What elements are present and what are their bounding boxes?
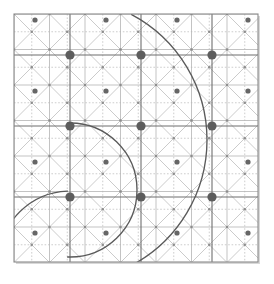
medium-lattice-dot bbox=[103, 159, 108, 164]
minor-lattice-dot bbox=[66, 173, 69, 176]
medium-lattice-dot bbox=[32, 17, 37, 22]
minor-lattice-dot bbox=[244, 102, 247, 105]
medium-lattice-dot bbox=[103, 17, 108, 22]
minor-lattice-dot bbox=[208, 173, 211, 176]
minor-lattice-dot bbox=[244, 244, 247, 247]
minor-lattice-dot bbox=[102, 66, 105, 69]
minor-lattice-dot bbox=[244, 173, 247, 176]
minor-lattice-dot bbox=[208, 102, 211, 105]
minor-lattice-dot bbox=[119, 226, 122, 229]
minor-lattice-dot bbox=[31, 137, 34, 140]
minor-lattice-dot bbox=[31, 173, 34, 176]
minor-lattice-dot bbox=[173, 66, 176, 69]
major-lattice-dot bbox=[207, 192, 216, 201]
minor-lattice-dot bbox=[208, 66, 211, 69]
minor-lattice-dot bbox=[226, 190, 229, 193]
minor-lattice-dot bbox=[137, 137, 140, 140]
medium-lattice-dot bbox=[103, 230, 108, 235]
minor-lattice-dot bbox=[102, 173, 105, 176]
minor-lattice-dot bbox=[84, 226, 87, 229]
minor-lattice-dot bbox=[226, 48, 229, 51]
minor-lattice-dot bbox=[48, 226, 51, 229]
minor-lattice-dot bbox=[66, 208, 69, 211]
minor-lattice-dot bbox=[208, 244, 211, 247]
medium-lattice-dot bbox=[245, 17, 250, 22]
minor-lattice-dot bbox=[66, 137, 69, 140]
major-lattice-dot bbox=[65, 50, 74, 59]
minor-lattice-dot bbox=[102, 208, 105, 211]
minor-lattice-dot bbox=[155, 84, 158, 87]
minor-lattice-dot bbox=[31, 31, 34, 34]
minor-lattice-dot bbox=[155, 48, 158, 51]
minor-lattice-dot bbox=[31, 66, 34, 69]
minor-lattice-dot bbox=[66, 31, 69, 34]
major-lattice-dot bbox=[207, 50, 216, 59]
minor-lattice-dot bbox=[155, 155, 158, 158]
minor-lattice-dot bbox=[244, 66, 247, 69]
medium-lattice-dot bbox=[32, 230, 37, 235]
minor-lattice-dot bbox=[190, 48, 193, 51]
minor-lattice-dot bbox=[48, 84, 51, 87]
minor-lattice-dot bbox=[48, 48, 51, 51]
minor-lattice-dot bbox=[84, 119, 87, 122]
medium-lattice-dot bbox=[32, 159, 37, 164]
medium-lattice-dot bbox=[245, 230, 250, 235]
minor-lattice-dot bbox=[137, 208, 140, 211]
medium-lattice-dot bbox=[174, 17, 179, 22]
medium-lattice-dot bbox=[174, 230, 179, 235]
minor-lattice-dot bbox=[102, 244, 105, 247]
minor-lattice-dot bbox=[226, 226, 229, 229]
medium-lattice-dot bbox=[32, 88, 37, 93]
minor-lattice-dot bbox=[48, 155, 51, 158]
minor-lattice-dot bbox=[190, 119, 193, 122]
minor-lattice-dot bbox=[173, 137, 176, 140]
minor-lattice-dot bbox=[31, 102, 34, 105]
minor-lattice-dot bbox=[119, 190, 122, 193]
minor-lattice-dot bbox=[208, 208, 211, 211]
minor-lattice-dot bbox=[190, 84, 193, 87]
minor-lattice-dot bbox=[244, 208, 247, 211]
medium-lattice-dot bbox=[174, 88, 179, 93]
minor-lattice-dot bbox=[48, 119, 51, 122]
minor-lattice-dot bbox=[137, 173, 140, 176]
major-lattice-dot bbox=[136, 121, 145, 130]
minor-lattice-dot bbox=[226, 84, 229, 87]
minor-lattice-dot bbox=[244, 137, 247, 140]
minor-lattice-dot bbox=[84, 190, 87, 193]
minor-lattice-dot bbox=[137, 244, 140, 247]
minor-lattice-dot bbox=[226, 119, 229, 122]
major-lattice-dot bbox=[65, 192, 74, 201]
minor-lattice-dot bbox=[155, 190, 158, 193]
minor-lattice-dot bbox=[244, 31, 247, 34]
major-lattice-dot bbox=[136, 192, 145, 201]
minor-lattice-dot bbox=[137, 31, 140, 34]
minor-lattice-dot bbox=[173, 244, 176, 247]
minor-lattice-dot bbox=[84, 84, 87, 87]
minor-lattice-dot bbox=[155, 226, 158, 229]
minor-lattice-dot bbox=[190, 190, 193, 193]
minor-lattice-dot bbox=[102, 102, 105, 105]
minor-lattice-dot bbox=[137, 66, 140, 69]
minor-lattice-dot bbox=[102, 137, 105, 140]
medium-lattice-dot bbox=[245, 159, 250, 164]
medium-lattice-dot bbox=[103, 88, 108, 93]
major-lattice-dot bbox=[207, 121, 216, 130]
minor-lattice-dot bbox=[31, 244, 34, 247]
minor-lattice-dot bbox=[173, 208, 176, 211]
minor-lattice-dot bbox=[173, 31, 176, 34]
minor-lattice-dot bbox=[66, 102, 69, 105]
minor-lattice-dot bbox=[208, 31, 211, 34]
major-lattice-dot bbox=[136, 50, 145, 59]
minor-lattice-dot bbox=[137, 102, 140, 105]
minor-lattice-dot bbox=[119, 84, 122, 87]
minor-lattice-dot bbox=[66, 66, 69, 69]
minor-lattice-dot bbox=[102, 31, 105, 34]
minor-lattice-dot bbox=[173, 102, 176, 105]
minor-lattice-dot bbox=[155, 119, 158, 122]
minor-lattice-dot bbox=[31, 208, 34, 211]
minor-lattice-dot bbox=[66, 244, 69, 247]
minor-lattice-dot bbox=[190, 155, 193, 158]
minor-lattice-dot bbox=[226, 155, 229, 158]
minor-lattice-dot bbox=[208, 137, 211, 140]
medium-lattice-dot bbox=[174, 159, 179, 164]
